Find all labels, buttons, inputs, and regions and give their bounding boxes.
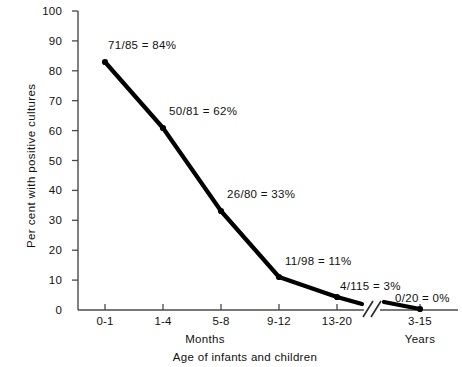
- y-axis-ticks: [72, 11, 78, 280]
- y-tick-label-40: 40: [36, 185, 62, 197]
- data-point-5: [417, 306, 423, 312]
- x-axis-ticks: [105, 304, 420, 310]
- y-tick-label-10: 10: [36, 275, 62, 287]
- x-tick-label-9-12: 9-12: [249, 316, 309, 328]
- data-label-0: 71/85 = 84%: [108, 40, 176, 52]
- y-tick-label-0: 0: [36, 305, 62, 317]
- axis-break-icon: [363, 301, 381, 317]
- data-point-3: [276, 274, 282, 280]
- y-tick-label-20: 20: [36, 245, 62, 257]
- x-tick-label-13-20: 13-20: [307, 316, 367, 328]
- y-tick-label-70: 70: [36, 96, 62, 108]
- y-tick-label-80: 80: [36, 66, 62, 78]
- data-point-markers: [102, 59, 423, 312]
- x-tick-label-0-1: 0-1: [75, 316, 135, 328]
- data-label-2: 26/80 = 33%: [227, 189, 295, 201]
- y-tick-label-60: 60: [36, 126, 62, 138]
- x-axis-title: Age of infants and children: [125, 352, 365, 364]
- y-tick-label-90: 90: [36, 36, 62, 48]
- data-point-2: [218, 208, 224, 214]
- x-group-label-months: Months: [165, 334, 245, 346]
- data-point-1: [160, 125, 166, 131]
- data-point-4: [334, 294, 340, 300]
- chart-plot-area: [0, 0, 462, 367]
- x-group-label-years: Years: [380, 334, 460, 346]
- x-tick-label-3-15: 3-15: [390, 316, 450, 328]
- data-label-3: 11/98 = 11%: [285, 256, 352, 268]
- x-tick-label-1-4: 1-4: [133, 316, 193, 328]
- x-tick-label-5-8: 5-8: [191, 316, 251, 328]
- y-tick-label-30: 30: [36, 215, 62, 227]
- y-tick-label-50: 50: [36, 156, 62, 168]
- chart-figure: Per cent with positive cultures 100 90 8…: [0, 0, 462, 367]
- data-point-0: [102, 59, 108, 65]
- data-label-1: 50/81 = 62%: [169, 106, 237, 118]
- data-label-5: 0/20 = 0%: [395, 293, 450, 305]
- data-line-stub-left: [337, 297, 362, 304]
- y-tick-label-100: 100: [36, 6, 62, 18]
- data-label-4: 4/115 = 3%: [340, 281, 401, 293]
